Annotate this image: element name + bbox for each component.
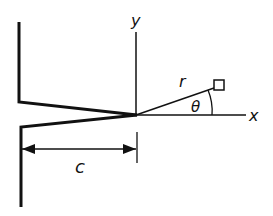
crack-length-label: c [75, 156, 85, 177]
arrow-left-icon [22, 144, 35, 154]
plate-edge-upper [19, 22, 137, 115]
angle-label: θ [191, 98, 200, 116]
x-axis-label: x [248, 106, 259, 125]
radius-line [136, 88, 214, 115]
arrow-right-icon [123, 144, 136, 154]
radius-label: r [179, 72, 187, 91]
element-box [214, 80, 224, 90]
crack-tip-diagram: y x r θ c [0, 0, 273, 216]
y-axis-label: y [130, 11, 141, 30]
angle-arc [208, 90, 212, 115]
